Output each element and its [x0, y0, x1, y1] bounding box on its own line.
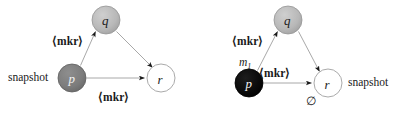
figure-container: q p r snapshot ⟨mkr⟩ ⟨mkr⟩ q p r ⟨mkr⟩ m… [0, 0, 404, 115]
edge-q2-to-r2 [299, 32, 320, 72]
node-r2-label: r [325, 78, 330, 91]
message-m1-subscript: 1 [247, 62, 251, 71]
node-p2-label: p [246, 77, 253, 90]
left-panel-edges [81, 32, 153, 79]
node-q2-label: q [284, 14, 291, 27]
edge-q-to-r [117, 32, 153, 68]
node-r-label: r [158, 73, 163, 86]
mkr-label-upper-left: ⟨mkr⟩ [52, 36, 84, 48]
mkr-label-lower-left: ⟨mkr⟩ [98, 92, 130, 104]
node-p-label: p [69, 72, 76, 85]
message-m1-label: m1 [239, 57, 251, 71]
diagram-svg-layer [0, 0, 404, 115]
snapshot-label-right: snapshot [348, 77, 388, 89]
mkr-label-upper-right: ⟨mkr⟩ [232, 36, 264, 48]
mkr-label-middle-right: ⟨mkr⟩ [259, 68, 291, 80]
node-q-label: q [102, 14, 109, 27]
snapshot-label-left: snapshot [8, 72, 48, 84]
empty-set-label: ∅ [306, 96, 316, 108]
